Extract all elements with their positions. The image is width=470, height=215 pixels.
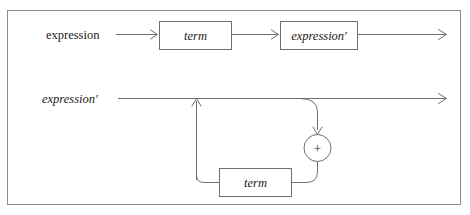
rail-main-to-plus bbox=[300, 99, 318, 131]
plus-operator-label: + bbox=[314, 141, 321, 156]
term-node-top-label: term bbox=[184, 29, 207, 43]
rail-left-corner-to-term-bottom bbox=[197, 172, 220, 183]
row2-start-label: expression′ bbox=[42, 92, 98, 106]
rail-term-bottom-to-plus bbox=[292, 162, 318, 183]
expression-prime-node-label: expression′ bbox=[291, 29, 347, 43]
row1-start-label: expression bbox=[46, 28, 100, 42]
term-node-bottom-label: term bbox=[244, 176, 267, 190]
railroad-diagram: expression term expression′ expression′ … bbox=[0, 0, 470, 215]
figure-page: expression term expression′ expression′ … bbox=[0, 0, 470, 215]
